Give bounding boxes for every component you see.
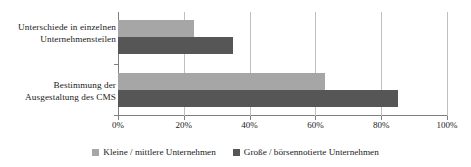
legend-item-0: Kleine / mittlere Unternehmen [92,147,216,157]
category-label-1-line-1: Ausgestaltung des CMS [0,92,116,104]
category-label-0-line-1: Unternehmensteilen [0,34,116,46]
bar-group0-series0 [118,20,194,37]
plot-area [118,12,447,116]
x-tick-label-60: 60% [295,120,335,130]
category-label-0-line-0: Unterschiede in einzelnen [0,22,116,34]
x-axis-line [118,115,448,116]
bar-group1-series0 [118,73,325,90]
legend-label-0: Kleine / mittlere Unternehmen [103,147,216,157]
category-tick-0 [114,64,118,65]
legend-item-1: Große / börsennotierte Unternehmen [233,147,379,157]
bar-group0-series1 [118,37,233,54]
legend-swatch-dark-icon [233,149,240,156]
x-tick-label-40: 40% [230,120,270,130]
category-label-0: Unterschiede in einzelnen Unternehmenste… [0,22,116,45]
legend-label-1: Große / börsennotierte Unternehmen [244,147,379,157]
category-label-1-line-0: Bestimmung der [0,80,116,92]
x-tick-label-0: 0% [98,120,138,130]
x-tick-label-20: 20% [164,120,204,130]
category-tick-1 [114,115,118,116]
gridline-100 [447,12,448,116]
bar-group1-series1 [118,90,398,107]
legend-swatch-light-icon [92,149,99,156]
x-tick-label-80: 80% [361,120,401,130]
chart-legend: Kleine / mittlere Unternehmen Große / bö… [0,147,471,157]
x-tick-label-100: 100% [427,120,467,130]
bar-chart: Unterschiede in einzelnen Unternehmenste… [0,0,471,167]
category-label-1: Bestimmung der Ausgestaltung des CMS [0,80,116,103]
